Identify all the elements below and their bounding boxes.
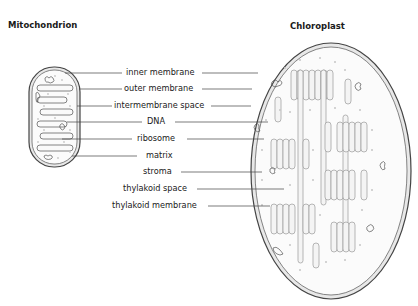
chloroplast-shape [251, 43, 411, 299]
label-dna: DNA [147, 116, 165, 126]
organelle-diagram [0, 0, 418, 306]
label-stroma: stroma [143, 166, 172, 176]
label-matrix: matrix [146, 150, 173, 160]
mitochondrion-shape [29, 67, 80, 167]
label-inner-membrane: inner membrane [126, 67, 194, 77]
label-intermembrane-space: intermembrane space [114, 100, 204, 110]
label-ribosome: ribosome [137, 133, 175, 143]
label-thylakoid-membrane: thylakoid membrane [112, 200, 197, 210]
label-outer-membrane: outer membrane [124, 83, 193, 93]
label-thylakoid-space: thylakoid space [123, 183, 187, 193]
